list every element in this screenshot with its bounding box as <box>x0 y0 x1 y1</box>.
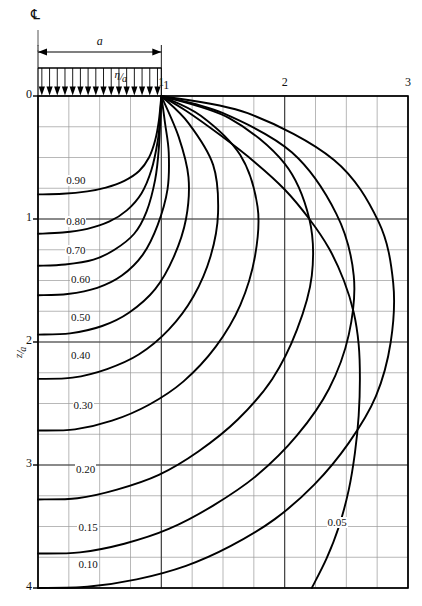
stress-isobar-chart <box>0 0 422 606</box>
y-axis-label: z/a <box>14 346 26 358</box>
chart-background <box>0 0 422 606</box>
x-axis-label: η/a <box>114 70 128 82</box>
